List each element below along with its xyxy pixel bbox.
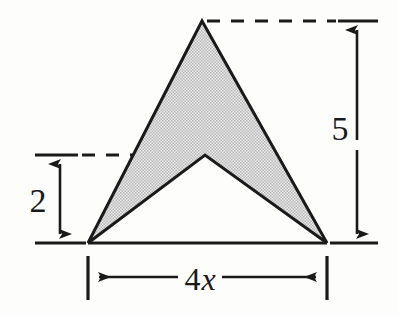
figure-container: 5 2 4x: [0, 0, 398, 316]
dimension-base-width: 4x: [88, 256, 327, 300]
geometry-figure: 5 2 4x: [0, 0, 398, 316]
base-width-label-number: 4: [184, 261, 200, 297]
dimension-height-notch: 2: [30, 164, 61, 234]
base-width-label: 4x: [184, 261, 215, 297]
dimension-height-total: 5: [332, 30, 358, 234]
height-total-label: 5: [332, 110, 349, 147]
shaded-chevron-shape: [88, 21, 327, 243]
base-width-label-variable: x: [200, 261, 215, 297]
height-notch-label: 2: [30, 182, 47, 219]
